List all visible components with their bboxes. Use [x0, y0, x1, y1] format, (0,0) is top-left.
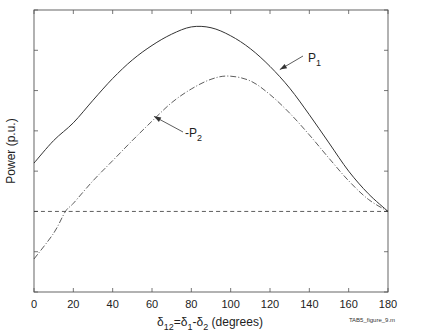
- x-tick-label: 80: [185, 298, 197, 310]
- x-tick-label: 140: [300, 298, 318, 310]
- p2-arrowhead: [154, 116, 161, 122]
- series-neg-p2-line: [34, 76, 388, 259]
- series-group: [34, 26, 388, 259]
- figure-file-label: TAB5_figure_9.m: [349, 317, 395, 323]
- x-tick-label: 160: [339, 298, 357, 310]
- series-p1-line: [34, 26, 388, 211]
- p1-label: P1: [308, 51, 321, 68]
- p2-label: -P2: [185, 126, 202, 143]
- y-axis-label: Power (p.u.): [4, 118, 18, 183]
- axis-ticks: 020406080100120140160180: [31, 10, 397, 310]
- x-tick-label: 40: [107, 298, 119, 310]
- x-tick-label: 120: [261, 298, 279, 310]
- x-tick-label: 100: [221, 298, 239, 310]
- x-tick-label: 20: [67, 298, 79, 310]
- p1-arrowhead: [280, 64, 287, 70]
- x-tick-label: 0: [31, 298, 37, 310]
- x-tick-label: 180: [379, 298, 397, 310]
- chart: 020406080100120140160180 P1 -P2 Power (p…: [0, 0, 425, 332]
- x-axis-label: δ12=δ1-δ2 (degrees): [157, 315, 263, 332]
- x-tick-label: 60: [146, 298, 158, 310]
